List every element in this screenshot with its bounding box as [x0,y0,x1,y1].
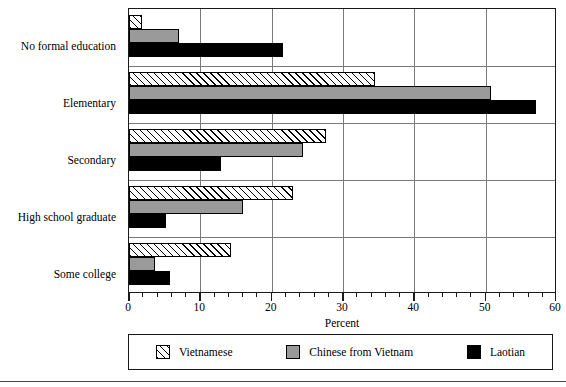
bar-vietnamese-secondary [129,129,326,143]
tick-minor-16 [242,293,243,297]
tick-major-10 [199,293,201,301]
category-label-some-college: Some college [54,268,116,280]
bar-group-elementary [129,66,555,123]
bar-chinese-elementary [129,86,491,100]
tick-minor-28 [328,293,329,297]
x-tick-label-50: 50 [479,301,491,313]
tick-minor-36 [385,293,386,297]
tick-minor-4 [157,293,158,297]
x-tick-label-10: 10 [194,301,206,313]
bar-chinese-no-formal-education [129,29,179,43]
bar-laotian-high-school-graduate [129,214,166,228]
bar-group-some-college [129,237,555,294]
tick-minor-18 [256,293,257,297]
tick-minor-2 [142,293,143,297]
x-axis-title: Percent [128,317,556,329]
x-tick-label-60: 60 [549,301,561,313]
bar-chart-figure: No formal education Elementary Secondary… [0,0,566,387]
gray-swatch-icon [286,345,300,359]
bar-vietnamese-no-formal-education [129,15,142,29]
chart-legend: Vietnamese Chinese from Vietnam Laotian [128,334,553,370]
tick-minor-26 [314,293,315,297]
x-axis-tick-labels: 0 10 20 30 40 50 60 [128,301,556,317]
tick-minor-52 [499,293,500,297]
x-tick-label-20: 20 [265,301,277,313]
tick-minor-42 [428,293,429,297]
tick-minor-8 [185,293,186,297]
tick-minor-34 [371,293,372,297]
bar-vietnamese-elementary [129,72,375,86]
legend-label-vietnamese: Vietnamese [179,346,233,358]
tick-minor-54 [513,293,514,297]
category-label-high-school-graduate: High school graduate [18,211,116,223]
legend-item-chinese-from-vietnam: Chinese from Vietnam [286,345,413,359]
legend-label-chinese-from-vietnam: Chinese from Vietnam [309,346,413,358]
tick-minor-32 [356,293,357,297]
tick-minor-48 [470,293,471,297]
tick-minor-6 [171,293,172,297]
bar-group-secondary [129,123,555,180]
bar-chinese-secondary [129,143,303,157]
x-tick-label-0: 0 [125,301,131,313]
bar-laotian-secondary [129,157,221,171]
legend-item-laotian: Laotian [467,345,525,359]
legend-label-laotian: Laotian [490,346,525,358]
tick-major-50 [485,293,487,301]
tick-minor-12 [214,293,215,297]
tick-major-40 [413,293,415,301]
black-swatch-icon [467,345,481,359]
tick-minor-14 [228,293,229,297]
bar-group-no-formal-education [129,9,555,66]
bar-chinese-some-college [129,257,155,271]
bar-vietnamese-some-college [129,243,231,257]
legend-item-vietnamese: Vietnamese [156,345,233,359]
tick-major-30 [342,293,344,301]
tick-minor-46 [456,293,457,297]
tick-minor-38 [399,293,400,297]
tick-minor-44 [442,293,443,297]
category-label-secondary: Secondary [67,154,116,166]
bar-vietnamese-high-school-graduate [129,186,293,200]
bar-laotian-elementary [129,100,536,114]
category-label-no-formal-education: No formal education [21,40,116,52]
tick-minor-22 [285,293,286,297]
tick-minor-56 [528,293,529,297]
tick-major-0 [128,293,130,301]
tick-minor-24 [299,293,300,297]
tick-minor-58 [542,293,543,297]
tick-major-20 [271,293,273,301]
bar-chinese-high-school-graduate [129,200,243,214]
category-axis-labels: No formal education Elementary Secondary… [0,8,122,293]
bar-group-high-school-graduate [129,180,555,237]
x-tick-label-40: 40 [408,301,420,313]
category-label-elementary: Elementary [63,97,116,109]
hatched-swatch-icon [156,345,170,359]
x-tick-label-30: 30 [336,301,348,313]
tick-major-60 [555,293,557,301]
page-bottom-rule [0,381,566,382]
bar-laotian-no-formal-education [129,43,283,57]
plot-area [128,8,556,293]
bar-laotian-some-college [129,271,170,285]
